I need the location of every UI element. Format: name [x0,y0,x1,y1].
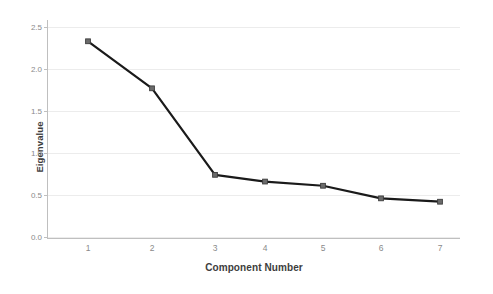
gridline-0-0 [48,237,460,238]
y-tick-mark-0-5 [44,195,48,196]
plot-area [48,20,460,237]
x-tick-label-7: 7 [428,243,452,253]
x-tick-label-4: 4 [253,243,277,253]
y-tick-label-2-5: 2.5 [12,23,42,32]
gridline-0-5 [48,195,460,196]
x-tick-label-2: 2 [140,243,164,253]
gridline-1-5 [48,111,460,112]
y-tick-label-1-0: 1.0 [12,149,42,158]
x-axis-title: Component Number [48,262,460,273]
y-tick-mark-1-0 [44,153,48,154]
y-tick-mark-2-5 [44,27,48,28]
x-axis-line [47,238,460,239]
y-tick-mark-1-5 [44,111,48,112]
x-tick-label-5: 5 [311,243,335,253]
y-tick-label-0-5: 0.5 [12,191,42,200]
y-tick-mark-0-0 [44,237,48,238]
gridline-2-5 [48,27,460,28]
y-tick-label-1-5: 1.5 [12,107,42,116]
y-tick-label-0-0: 0.0 [12,233,42,242]
gridline-2-0 [48,69,460,70]
x-tick-label-1: 1 [76,243,100,253]
y-tick-mark-2-0 [44,69,48,70]
gridline-1-0 [48,153,460,154]
y-tick-label-2-0: 2.0 [12,65,42,74]
x-tick-label-6: 6 [369,243,393,253]
scree-plot-figure: Eigenvalue 2.5 2.0 1.5 1.0 0.5 0.0 1 2 3… [0,0,493,294]
x-tick-label-3: 3 [203,243,227,253]
